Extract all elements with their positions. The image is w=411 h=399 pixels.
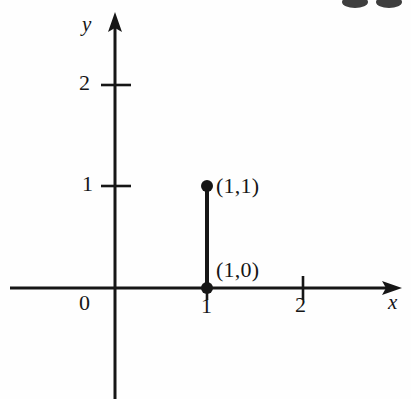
point-label-1-1: (1,1) bbox=[216, 175, 259, 197]
origin-label: 0 bbox=[79, 292, 90, 314]
x-tick-label-1: 1 bbox=[201, 295, 212, 317]
data-point-1-1 bbox=[201, 180, 213, 192]
x-axis-label: x bbox=[388, 292, 397, 313]
y-tick-label-2: 2 bbox=[79, 72, 90, 94]
point-label-1-0: (1,0) bbox=[216, 259, 259, 281]
y-tick-label-1: 1 bbox=[82, 173, 93, 195]
x-tick-label-2: 2 bbox=[295, 294, 306, 316]
y-axis-label: y bbox=[82, 14, 91, 35]
scan-artifact bbox=[342, 0, 402, 8]
plot-canvas bbox=[0, 0, 411, 399]
coordinate-plane-figure: y x 0 2 1 1 2 (1,1) (1,0) bbox=[0, 0, 411, 399]
